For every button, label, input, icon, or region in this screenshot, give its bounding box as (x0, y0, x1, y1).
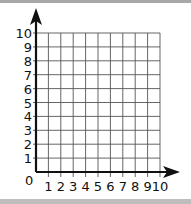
y-tick-label: 8 (24, 54, 32, 69)
y-tick-label: 9 (24, 40, 32, 55)
y-tick-label: 1 (24, 151, 32, 166)
x-tick-label: 3 (69, 179, 77, 194)
x-tick-label: 10 (152, 179, 169, 194)
x-tick-label: 4 (81, 179, 89, 194)
y-tick-label: 2 (24, 137, 32, 152)
y-tick-label: 7 (24, 68, 32, 83)
y-tick-label: 3 (24, 123, 32, 138)
x-tick-label: 2 (57, 179, 65, 194)
x-axis-tick-labels: 12345678910 (44, 179, 168, 194)
coordinate-grid-chart: 12345678910 12345678910 0 (0, 0, 191, 204)
x-tick-label: 8 (131, 179, 139, 194)
x-tick-label: 5 (94, 179, 102, 194)
origin-label: 0 (25, 173, 33, 188)
y-tick-label: 5 (24, 96, 32, 111)
y-tick-label: 4 (24, 109, 32, 124)
x-tick-label: 7 (119, 179, 127, 194)
y-tick-label: 6 (24, 82, 32, 97)
x-tick-label: 9 (143, 179, 151, 194)
y-tick-label: 10 (15, 26, 32, 41)
y-axis-tick-labels: 12345678910 (15, 26, 32, 166)
x-tick-label: 1 (44, 179, 52, 194)
grid-lines (33, 33, 160, 177)
x-tick-label: 6 (106, 179, 114, 194)
axes (30, 8, 180, 178)
